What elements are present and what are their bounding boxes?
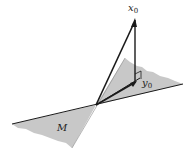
x0-label-subscript: 0	[134, 7, 138, 15]
y0-label-subscript: 0	[148, 82, 152, 90]
projection-diagram	[0, 0, 195, 155]
x0-label: x0	[128, 3, 138, 15]
x0-arrowhead-icon	[131, 18, 137, 27]
y0-label: y0	[142, 78, 152, 90]
subspace-m-label: M	[57, 123, 67, 133]
plane-m-lower-left	[12, 105, 96, 148]
